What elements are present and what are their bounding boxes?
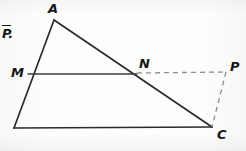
geometry-figure: [0, 0, 246, 151]
label-p-overline-period: .: [8, 26, 13, 41]
segment-np-dashed-line: [137, 72, 226, 73]
label-a: A: [48, 2, 58, 15]
label-p: P: [230, 60, 240, 73]
diagram-canvas: P. A M N P C: [0, 0, 246, 151]
label-p-overline: P.: [2, 25, 13, 40]
label-m: M: [11, 66, 24, 79]
segment-pc-dashed-line: [212, 72, 226, 127]
segment-bc-line: [14, 127, 212, 128]
label-c: C: [217, 128, 227, 141]
label-n: N: [139, 57, 150, 70]
